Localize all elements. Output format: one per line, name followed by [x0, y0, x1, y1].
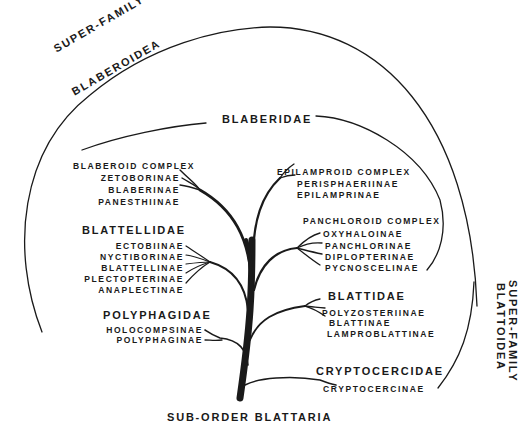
diagram-title: SUB-ORDER BLATTARIA	[167, 412, 332, 423]
subfamily-pycnoscelinae: PYCNOSCELINAE	[325, 264, 419, 273]
family-blaberidae: BLABERIDAE	[222, 114, 312, 125]
complex-epilamproid: EPILAMPROID COMPLEX	[277, 168, 411, 177]
superfamily-blattoidea-line2: BLATTOIDEA	[495, 283, 506, 371]
phylogeny-tree	[0, 0, 526, 446]
subfamily-panchlorinae: PANCHLORINAE	[325, 242, 412, 251]
subfamily-diplopterinae: DIPLOPTERINAE	[325, 253, 415, 262]
subfamily-blaberinae: BLABERINAE	[108, 186, 180, 195]
complex-blaberoid: BLABEROID COMPLEX	[73, 162, 195, 171]
subfamily-lamproblattinae: LAMPROBLATTINAE	[327, 330, 435, 339]
subfamily-ectobiinae: ECTOBIINAE	[116, 242, 184, 251]
family-polyphagidae: POLYPHAGIDAE	[103, 310, 212, 321]
subfamily-blattinae: BLATTINAE	[329, 319, 391, 328]
subfamily-polyphaginae: POLYPHAGINAE	[117, 336, 203, 345]
family-cryptocercidae: CRYPTOCERCIDAE	[316, 366, 444, 377]
subfamily-blattellinae: BLATTELLINAE	[101, 264, 184, 273]
subfamily-oxyhaloinae: OXYHALOINAE	[323, 230, 403, 239]
subfamily-cryptocercinae: CRYPTOCERCINAE	[323, 385, 425, 394]
subfamily-anaplectinae: ANAPLECTINAE	[98, 286, 184, 295]
subfamily-nyctiborinae: NYCTIBORINAE	[100, 253, 184, 262]
subfamily-panesthiinae: PANESTHIINAE	[98, 198, 180, 207]
subfamily-epilamprinae: EPILAMPRINAE	[297, 191, 380, 200]
subfamily-holocompsinae: HOLOCOMPSINAE	[106, 326, 203, 335]
family-blattidae: BLATTIDAE	[328, 291, 406, 302]
family-blattellidae: BLATTELLIDAE	[82, 225, 186, 236]
subfamily-plectopterinae: PLECTOPTERINAE	[84, 275, 184, 284]
blaberidae-arc-left	[82, 123, 206, 150]
superfamily-blattoidea-line1: SUPER-FAMILY	[507, 280, 518, 382]
subfamily-zetoborinae: ZETOBORINAE	[101, 174, 180, 183]
subfamily-polyzosteriinae: POLYZOSTERIINAE	[322, 309, 426, 318]
complex-panchloroid: PANCHLOROID COMPLEX	[303, 217, 440, 226]
subfamily-perisphaeriinae: PERISPHAERIINAE	[297, 180, 399, 189]
